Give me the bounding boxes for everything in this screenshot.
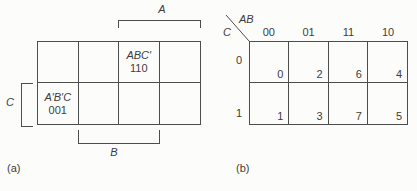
kmap-b-column-headers: 00 01 11 10: [249, 26, 408, 38]
kmap-b-cell-7: 7: [329, 83, 368, 124]
bracket-a: [118, 20, 201, 28]
row-header-1: 1: [233, 107, 245, 119]
minterm-label: ABC′: [126, 49, 151, 62]
cell-index: 6: [356, 68, 362, 80]
kmap-b-cell-4: 4: [368, 42, 407, 83]
kmap-a-cell: [160, 83, 201, 124]
minterm-label: A′B′C: [44, 91, 71, 104]
kmap-a-cell: [119, 83, 160, 124]
bracket-c: [21, 83, 33, 127]
kmap-a-cell: [79, 42, 120, 83]
cell-index: 2: [316, 68, 322, 80]
cell-index: 1: [277, 110, 283, 122]
kmap-b-cell-6: 6: [329, 42, 368, 83]
kmap-b-cell-2: 2: [289, 42, 328, 83]
row-header-0: 0: [233, 54, 245, 66]
corner-label-ab: AB: [239, 13, 254, 25]
kmap-b-cell-1: 1: [250, 83, 289, 124]
corner-label-c: C: [223, 26, 231, 38]
kmap-a-cell: [160, 42, 201, 83]
cell-index: 7: [356, 110, 362, 122]
bracket-a-label: A: [155, 3, 169, 15]
kmap-a-cell: [79, 83, 120, 124]
col-header-11: 11: [329, 26, 369, 38]
bracket-b-label: B: [107, 146, 121, 158]
kmap-a-cell-abc: ABC′ 110: [119, 42, 160, 83]
kmap-a-grid: ABC′ 110 A′B′C 001: [37, 41, 201, 125]
col-header-00: 00: [249, 26, 289, 38]
cell-index: 0: [277, 68, 283, 80]
col-header-01: 01: [289, 26, 329, 38]
kmap-a-cell-a1b1c: A′B′C 001: [38, 83, 79, 124]
col-header-10: 10: [368, 26, 408, 38]
kmap-b-cell-3: 3: [289, 83, 328, 124]
kmap-b-grid: 0 2 6 4 1 3 7 5: [249, 41, 408, 125]
karnaugh-maps-figure: A C ABC′ 110 A′B′C 001 B (a) AB C 00 01 …: [0, 0, 417, 191]
caption-b: (b): [236, 162, 249, 174]
cell-index: 4: [396, 68, 402, 80]
bracket-c-label: C: [3, 96, 17, 108]
minterm-code: 110: [130, 62, 148, 75]
kmap-a-cell: [38, 42, 79, 83]
caption-a: (a): [7, 162, 20, 174]
cell-index: 3: [316, 110, 322, 122]
bracket-b: [78, 130, 160, 144]
kmap-b-cell-5: 5: [368, 83, 407, 124]
kmap-b-cell-0: 0: [250, 42, 289, 83]
minterm-code: 001: [49, 104, 67, 117]
cell-index: 5: [396, 110, 402, 122]
